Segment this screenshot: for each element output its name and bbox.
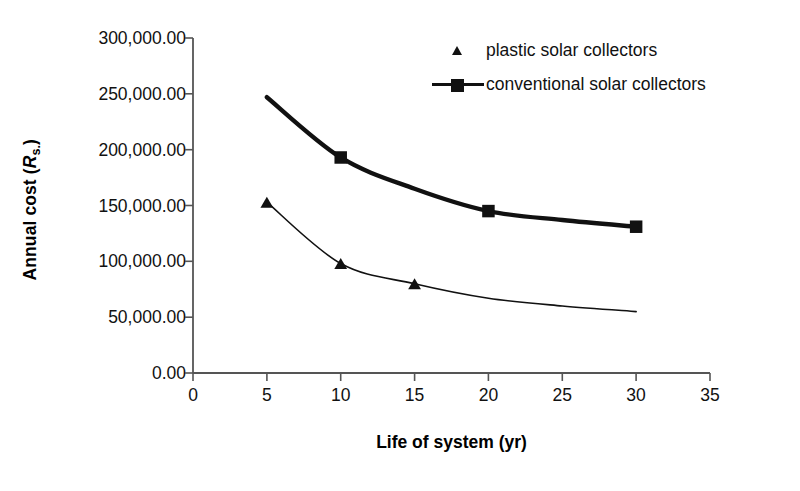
series-line: [267, 202, 636, 311]
chart-figure: Annual cost (Rs.) 0.00 50,000.00 100,000…: [0, 0, 800, 491]
data-point-triangle: [408, 278, 421, 289]
series-conventional: [267, 97, 643, 233]
data-point-square: [630, 220, 643, 233]
data-point-square: [482, 205, 495, 218]
plot-area: [0, 0, 800, 491]
data-point-square: [334, 151, 347, 164]
x-axis-ticks: [193, 373, 710, 381]
series-layer: [260, 97, 642, 311]
series-line: [267, 97, 636, 227]
series-plastic: [260, 197, 636, 312]
data-point-triangle: [334, 258, 347, 269]
data-point-triangle: [260, 197, 273, 208]
y-axis-ticks: [185, 38, 193, 373]
